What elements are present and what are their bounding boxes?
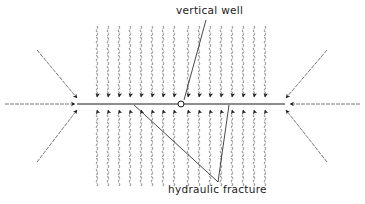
- hydraulic-fracture-pointer: [134, 105, 218, 182]
- inflow-arrow-up: [96, 110, 97, 186]
- upper-left-diagonal-arrow: [37, 50, 77, 98]
- inflow-arrow-up: [129, 110, 130, 186]
- inflow-arrow-down: [220, 26, 221, 97]
- flow-lines-top: [96, 26, 265, 97]
- hydraulic-fracture-label: hydraulic fracture: [168, 183, 267, 195]
- hydraulic-fracture-pointer: [218, 105, 229, 182]
- inflow-arrow-down: [198, 26, 199, 97]
- inflow-arrow-down: [209, 26, 210, 97]
- vertical-well-icon: [178, 101, 184, 107]
- inflow-arrow-down: [129, 26, 130, 97]
- inflow-arrow-down: [151, 26, 152, 97]
- fractured-well-flow-diagram: [0, 0, 365, 204]
- inflow-arrow-up: [140, 110, 141, 186]
- inflow-arrow-up: [220, 110, 221, 186]
- inflow-arrow-up: [107, 110, 108, 186]
- inflow-arrow-down: [118, 26, 119, 97]
- inflow-arrow-up: [242, 110, 243, 186]
- inflow-arrow-up: [118, 110, 119, 186]
- inflow-arrow-down: [140, 26, 141, 97]
- inflow-arrow-up: [173, 110, 174, 186]
- inflow-arrow-down: [96, 26, 97, 97]
- inflow-arrow-up: [198, 110, 199, 186]
- inflow-arrow-up: [264, 110, 265, 186]
- inflow-arrow-up: [162, 110, 163, 186]
- inflow-arrow-up: [187, 110, 188, 186]
- inflow-arrow-down: [231, 26, 232, 97]
- inflow-arrow-down: [107, 26, 108, 97]
- lower-left-diagonal-arrow: [37, 110, 77, 162]
- inflow-arrow-down: [162, 26, 163, 97]
- vertical-well-label: vertical well: [176, 4, 243, 16]
- lower-right-diagonal-arrow: [286, 110, 327, 162]
- inflow-arrow-up: [231, 110, 232, 186]
- inflow-arrow-down: [264, 26, 265, 97]
- inflow-arrow-down: [242, 26, 243, 97]
- inflow-arrow-down: [173, 26, 174, 97]
- upper-right-diagonal-arrow: [286, 50, 327, 98]
- inflow-arrow-up: [253, 110, 254, 186]
- inflow-arrow-down: [253, 26, 254, 97]
